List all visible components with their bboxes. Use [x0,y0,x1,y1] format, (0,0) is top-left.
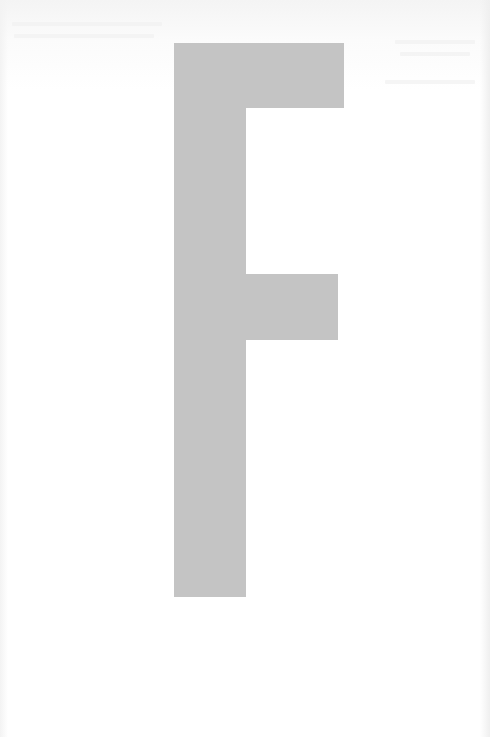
letter-f-top-arm [174,43,344,108]
page-edge-left [0,0,8,737]
bleed-through-line [12,22,162,26]
page-edge-right [480,0,490,737]
bleed-through-line [395,40,475,44]
letter-f-middle-arm [174,274,338,340]
bleed-through-line [400,52,470,56]
bleed-through-line [14,34,154,38]
scanned-page: F [0,0,490,737]
bleed-through-line [385,80,475,84]
